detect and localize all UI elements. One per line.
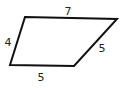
side-label-right: 5 bbox=[99, 43, 106, 54]
quadrilateral-diagram: 7 5 5 4 bbox=[0, 0, 123, 88]
side-label-top: 7 bbox=[65, 6, 72, 17]
side-label-bottom: 5 bbox=[38, 72, 45, 83]
side-label-left: 4 bbox=[5, 37, 12, 48]
